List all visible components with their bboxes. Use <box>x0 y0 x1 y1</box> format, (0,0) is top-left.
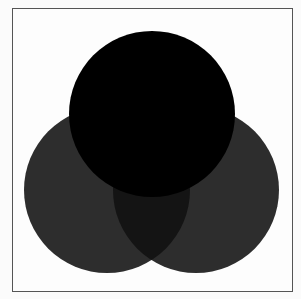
venn-diagram <box>0 0 301 299</box>
top-circle <box>69 31 235 197</box>
